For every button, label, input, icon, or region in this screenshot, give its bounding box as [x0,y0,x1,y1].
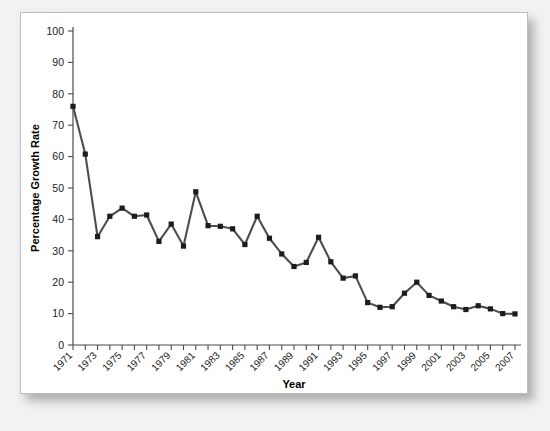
data-point-marker [120,206,125,211]
y-axis-title: Percentage Growth Rate [29,124,41,252]
x-tick-label: 1977 [125,349,149,373]
data-point-marker [414,280,419,285]
x-tick-label: 1987 [247,349,271,373]
data-point-marker [95,234,100,239]
data-point-marker [132,214,137,219]
series-polyline [73,106,515,314]
x-tick-label: 1991 [296,349,320,373]
data-point-marker [426,293,431,298]
data-point-marker [205,223,210,228]
data-point-marker [402,291,407,296]
data-point-marker [193,189,198,194]
data-point-marker [267,236,272,241]
y-tick-label: 100 [46,25,64,37]
y-tick-label: 60 [52,150,64,162]
data-point-marker [255,214,260,219]
x-tick-label: 1993 [321,349,345,373]
x-tick-label: 1971 [51,349,75,373]
x-tick-label: 1997 [370,349,394,373]
y-tick-label: 70 [52,119,64,131]
data-point-marker [242,242,247,247]
data-point-marker [488,306,493,311]
screenshot-root: 0102030405060708090100 19711973197519771… [0,0,550,431]
x-tick-label: 2003 [444,349,468,373]
data-point-marker [500,311,505,316]
y-tick-label: 20 [52,276,64,288]
x-tick-label: 2007 [493,349,517,373]
data-point-marker [107,214,112,219]
chart-svg: 0102030405060708090100 19711973197519771… [21,13,529,395]
data-point-marker [304,260,309,265]
data-point-marker [181,243,186,248]
x-tick-label: 1985 [223,349,247,373]
data-point-marker [83,151,88,156]
data-point-marker [439,298,444,303]
y-tick-label: 40 [52,213,64,225]
data-point-marker [169,222,174,227]
x-tick-label: 1983 [198,349,222,373]
x-tick-label: 2005 [468,349,492,373]
y-tick-label: 10 [52,307,64,319]
x-axis-title: Year [282,378,306,390]
line-chart: 0102030405060708090100 19711973197519771… [21,13,529,395]
y-tick-label: 80 [52,88,64,100]
data-point-marker [377,305,382,310]
data-point-marker [390,304,395,309]
x-tick-label: 1995 [346,349,370,373]
data-point-marker [341,276,346,281]
data-point-marker [70,104,75,109]
data-point-marker [463,307,468,312]
data-point-marker [218,224,223,229]
data-point-marker [353,273,358,278]
chart-panel: 0102030405060708090100 19711973197519771… [20,12,528,394]
y-tick-label: 50 [52,182,64,194]
x-tick-label: 1973 [75,349,99,373]
data-point-marker [279,251,284,256]
x-tick-label: 1981 [174,349,198,373]
y-tick-label: 0 [58,339,64,351]
data-point-marker [512,311,517,316]
y-tick-label: 90 [52,56,64,68]
y-tick-label: 30 [52,245,64,257]
x-axis: 1971197319751977197919811983198519871989… [51,345,521,373]
data-point-marker [291,264,296,269]
x-tick-label: 1989 [272,349,296,373]
data-series-growth-rate [70,104,517,317]
x-tick-label: 1979 [149,349,173,373]
x-tick-label: 2001 [419,349,443,373]
data-point-marker [316,235,321,240]
data-point-marker [230,226,235,231]
data-point-marker [144,212,149,217]
data-point-marker [365,300,370,305]
data-point-marker [328,259,333,264]
x-tick-label: 1999 [395,349,419,373]
data-point-marker [476,303,481,308]
data-point-marker [156,239,161,244]
data-point-marker [451,304,456,309]
y-axis: 0102030405060708090100 [46,25,73,351]
x-tick-label: 1975 [100,349,124,373]
